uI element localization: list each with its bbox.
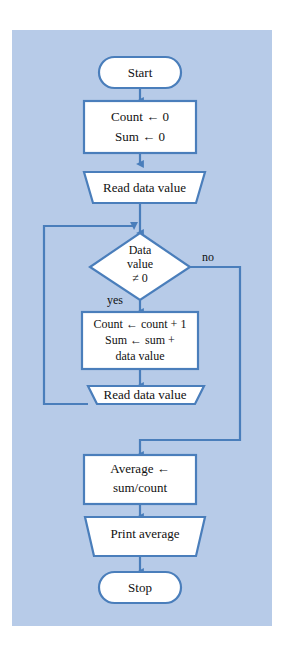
io-print-shape: [85, 517, 205, 556]
io-read1-shape: [84, 172, 205, 203]
terminator-stop-shape: [99, 572, 181, 603]
decision-shape: [90, 233, 190, 300]
process-average-shape: [84, 455, 196, 504]
flowchart-graphics: [0, 0, 285, 660]
process-init-shape: [84, 101, 196, 153]
terminator-start-shape: [99, 57, 181, 88]
flowchart-canvas: Start Count ← 0 Sum ← 0 Read data value …: [0, 0, 285, 660]
shape-group: [82, 57, 205, 603]
io-read2-shape: [88, 386, 204, 404]
process-accumulate-shape: [82, 312, 198, 369]
